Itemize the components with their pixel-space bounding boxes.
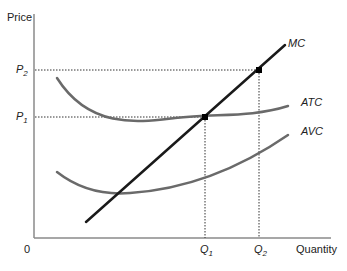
p2-subscript: 2 <box>23 69 27 78</box>
atc-curve <box>57 78 288 121</box>
origin-label: 0 <box>24 244 30 255</box>
atc-label: ATC <box>301 97 322 108</box>
mc-curve <box>86 45 285 222</box>
y-axis-label: Price <box>7 12 32 23</box>
p1-subscript: 1 <box>23 116 27 125</box>
avc-label: AVC <box>301 126 323 137</box>
point-q1-p1 <box>202 114 208 120</box>
mc-label: MC <box>288 38 305 49</box>
q1-subscript: 1 <box>209 249 213 258</box>
p1-tick-label: P1 <box>16 111 28 125</box>
p2-tick-label: P2 <box>16 64 28 78</box>
q2-letter: Q <box>254 243 263 255</box>
q2-subscript: 2 <box>263 249 267 258</box>
q1-tick-label: Q1 <box>200 244 213 258</box>
point-q2-p2 <box>256 67 262 73</box>
q1-letter: Q <box>200 243 209 255</box>
q2-tick-label: Q2 <box>254 244 267 258</box>
x-axis-label: Quantity <box>296 244 337 255</box>
